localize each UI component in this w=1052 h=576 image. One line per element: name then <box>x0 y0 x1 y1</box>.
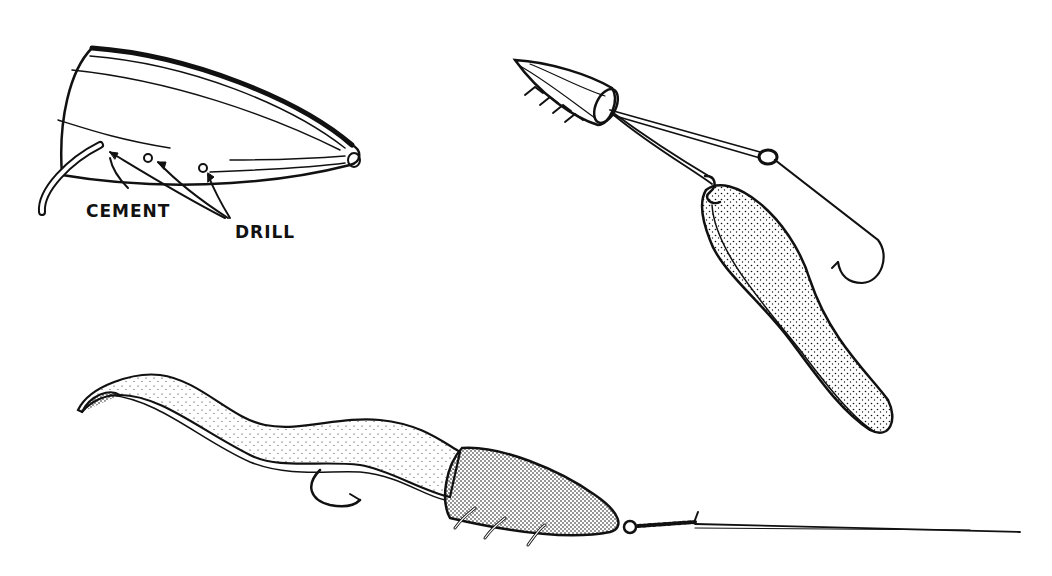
cement-label: CEMENT <box>86 201 170 221</box>
lure-head-drilled <box>42 48 360 218</box>
drill-label: DRILL <box>235 222 295 242</box>
illustration-canvas <box>0 0 1052 576</box>
rigged-head-with-spoon-and-hook <box>515 60 892 433</box>
